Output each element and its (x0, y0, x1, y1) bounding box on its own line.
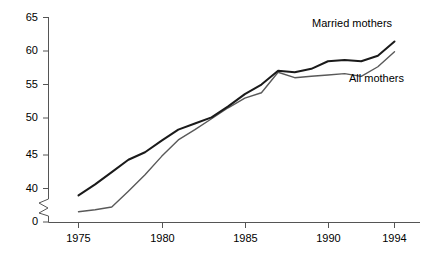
x-axis-ticks (79, 223, 395, 229)
y-tick-label-45: 45 (12, 149, 38, 160)
y-tick-label-50: 50 (12, 112, 38, 123)
y-tick-label-40: 40 (12, 183, 38, 194)
x-tick-label-1980: 1980 (137, 233, 188, 244)
y-axis-ticks (43, 18, 49, 223)
series-line-married-mothers (79, 41, 395, 195)
series-label-married-mothers: Married mothers (312, 18, 392, 29)
y-tick-label-65: 65 (12, 12, 38, 23)
x-tick-label-1990: 1990 (303, 233, 354, 244)
line-chart: 65 60 55 50 45 40 0 1975 1980 1985 1990 … (0, 0, 446, 262)
y-tick-label-0: 0 (12, 216, 38, 227)
y-tick-label-55: 55 (12, 79, 38, 90)
x-tick-label-1994: 1994 (369, 233, 420, 244)
y-tick-label-60: 60 (12, 45, 38, 56)
y-axis-break-icon (39, 199, 49, 216)
x-tick-label-1975: 1975 (53, 233, 104, 244)
series-label-all-mothers: All mothers (349, 73, 404, 84)
x-tick-label-1985: 1985 (220, 233, 271, 244)
chart-plot-area (0, 0, 446, 262)
series-line-all-mothers (79, 52, 395, 212)
